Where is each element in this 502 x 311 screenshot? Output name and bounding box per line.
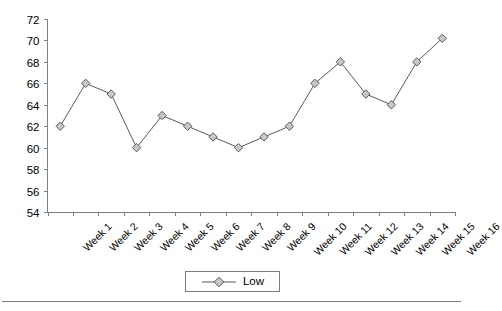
x-axis-label: Week 16 <box>464 220 502 258</box>
series-line-low <box>60 38 442 147</box>
data-point-marker[interactable] <box>209 133 217 141</box>
y-tick-label: 68 <box>27 57 40 69</box>
y-tick-label: 70 <box>27 35 40 47</box>
legend-label-low: Low <box>243 276 264 288</box>
y-tick-label: 62 <box>27 121 40 133</box>
data-point-marker[interactable] <box>82 79 90 87</box>
y-axis-ticks <box>44 20 48 213</box>
data-point-marker[interactable] <box>183 122 191 130</box>
y-tick-label: 54 <box>27 207 40 219</box>
y-tick-label: 58 <box>27 164 40 176</box>
y-tick-label: 72 <box>27 14 40 26</box>
data-point-marker[interactable] <box>107 90 115 98</box>
chart-legend[interactable]: Low <box>185 271 280 292</box>
data-point-marker[interactable] <box>285 122 293 130</box>
data-point-marker[interactable] <box>387 101 395 109</box>
y-axis-tick-labels: 54565860626466687072 <box>27 14 40 219</box>
y-tick-label: 66 <box>27 78 40 90</box>
data-point-marker[interactable] <box>56 122 64 130</box>
data-point-marker[interactable] <box>234 143 242 151</box>
data-point-marker[interactable] <box>260 133 268 141</box>
series-markers-low <box>56 34 446 152</box>
y-tick-label: 56 <box>27 186 40 198</box>
legend-marker-icon <box>201 276 237 288</box>
y-tick-label: 60 <box>27 143 40 155</box>
y-tick-label: 64 <box>27 100 40 112</box>
